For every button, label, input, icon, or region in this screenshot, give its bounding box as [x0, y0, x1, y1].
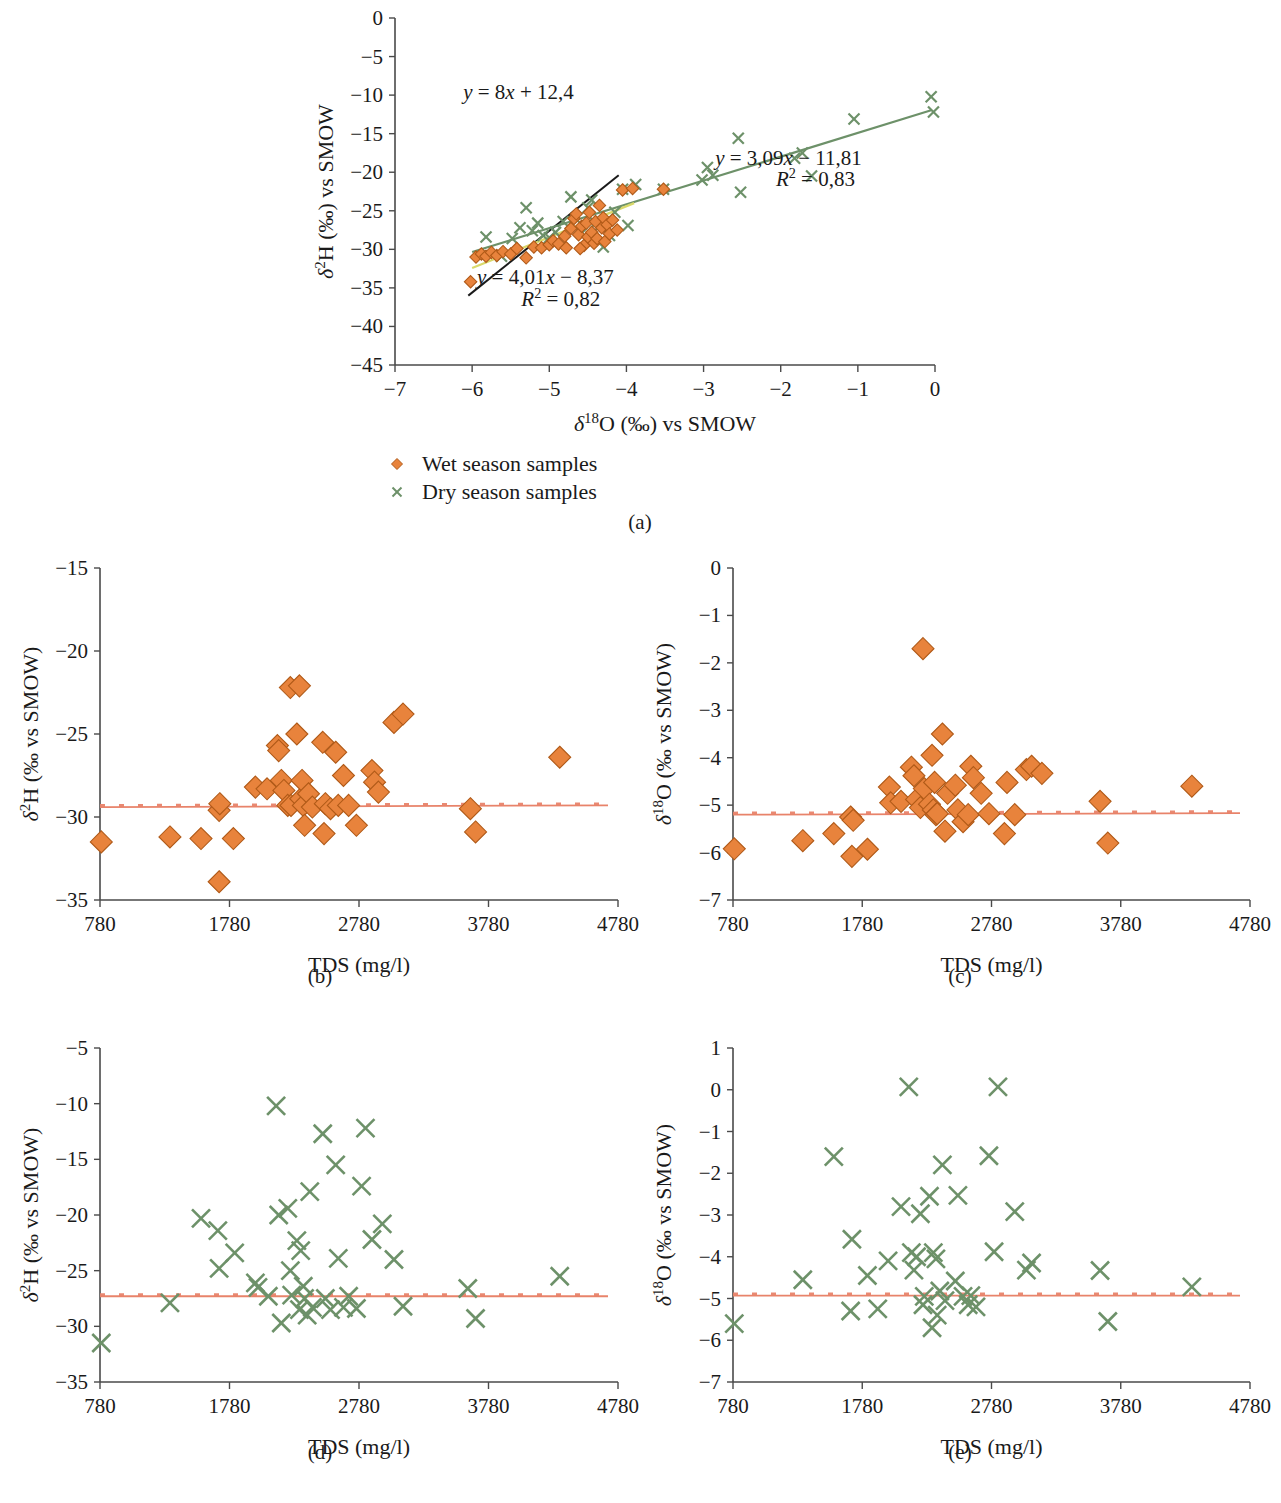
- data-point-cross: [329, 1249, 347, 1267]
- y-tick-label: −5: [66, 1036, 88, 1060]
- data-point-cross: [911, 1205, 929, 1223]
- data-point-diamond: [792, 830, 814, 852]
- cross-icon: [390, 485, 404, 499]
- data-point-diamond: [313, 823, 335, 845]
- data-point-cross: [843, 1230, 861, 1248]
- x-tick-label: 3780: [1100, 1394, 1142, 1418]
- data-point-cross: [924, 1244, 942, 1262]
- y-tick-label: −35: [55, 888, 88, 912]
- panel-a: 0−5−10−15−20−25−30−35−40−45−7−6−5−4−3−2−…: [300, 0, 1000, 420]
- data-point-diamond: [1181, 775, 1203, 797]
- panel-b-plot: −15−20−25−30−357801780278037804780TDS (m…: [0, 540, 640, 960]
- x-tick-label: 3780: [468, 1394, 510, 1418]
- data-point-diamond: [921, 744, 943, 766]
- legend-label-wet: Wet season samples: [422, 451, 597, 477]
- series-dry: [92, 1097, 568, 1352]
- data-point-cross: [985, 1243, 1003, 1261]
- data-point-cross: [794, 1271, 812, 1289]
- y-tick-label: −6: [699, 841, 721, 865]
- data-point-cross: [301, 1183, 319, 1201]
- y-tick-label: 0: [373, 6, 384, 30]
- data-point-cross: [849, 114, 860, 125]
- y-tick-label: −25: [55, 1259, 88, 1283]
- y-tick-label: 0: [711, 556, 722, 580]
- data-point-cross: [949, 1186, 967, 1204]
- y-tick-label: −10: [55, 1092, 88, 1116]
- data-point-cross: [481, 231, 492, 242]
- y-tick-label: −1: [699, 1120, 721, 1144]
- data-point-cross: [879, 1252, 897, 1270]
- y-tick-label: −6: [699, 1328, 721, 1352]
- y-tick-label: −15: [350, 122, 383, 146]
- y-axis-title: δ2H (‰) vs SMOW: [312, 104, 338, 279]
- data-point-diamond: [1004, 804, 1026, 826]
- data-point-cross: [303, 1298, 321, 1316]
- data-point-cross: [725, 1315, 743, 1333]
- x-tick-label: 780: [717, 912, 749, 936]
- data-point-diamond: [931, 723, 953, 745]
- x-tick-label: −5: [538, 377, 560, 401]
- data-point-cross: [210, 1259, 228, 1277]
- y-tick-label: −35: [350, 276, 383, 300]
- x-tick-label: 1780: [209, 1394, 251, 1418]
- x-tick-label: −1: [847, 377, 869, 401]
- data-point-cross: [267, 1097, 285, 1115]
- axes: 0−5−10−15−20−25−30−35−40−45−7−6−5−4−3−2−…: [350, 6, 940, 401]
- data-point-cross: [908, 1248, 926, 1266]
- data-point-diamond: [996, 771, 1018, 793]
- data-point-cross: [733, 133, 744, 144]
- data-point-diamond: [823, 823, 845, 845]
- panel-label-a: (a): [600, 510, 680, 535]
- data-point-cross: [209, 1222, 227, 1240]
- x-tick-label: −7: [384, 377, 406, 401]
- data-point-cross: [980, 1147, 998, 1165]
- x-tick-label: 0: [930, 377, 941, 401]
- x-tick-label: −4: [615, 377, 638, 401]
- data-point-cross: [842, 1302, 860, 1320]
- y-tick-label: −10: [350, 83, 383, 107]
- y-tick-label: −30: [350, 237, 383, 261]
- data-point-diamond: [549, 746, 571, 768]
- series-wet: [90, 675, 570, 893]
- dry-regression-r2: R2 = 0,83: [775, 165, 855, 191]
- data-point-cross: [928, 107, 939, 118]
- y-tick-label: −2: [699, 651, 721, 675]
- y-tick-label: 1: [711, 1036, 722, 1060]
- data-point-cross: [565, 191, 576, 202]
- x-tick-label: 2780: [971, 912, 1013, 936]
- panel-e: 10−1−2−3−4−5−6−77801780278037804780TDS (…: [640, 1010, 1281, 1430]
- data-point-cross: [353, 1177, 371, 1195]
- series-wet: [723, 638, 1203, 868]
- gmwl-equation: y = 8x + 12,4: [461, 80, 574, 104]
- data-point-cross: [327, 1156, 345, 1174]
- data-point-cross: [1023, 1254, 1041, 1272]
- data-point-cross: [622, 220, 633, 231]
- x-tick-label: 2780: [971, 1394, 1013, 1418]
- trendline-group: [733, 1294, 1240, 1296]
- data-point-cross: [926, 91, 937, 102]
- x-tick-label: 4780: [597, 912, 639, 936]
- data-point-cross: [1006, 1203, 1024, 1221]
- data-point-cross: [385, 1251, 403, 1269]
- panel-d: −5−10−15−20−25−30−357801780278037804780T…: [0, 1010, 640, 1430]
- panel-a-plot: 0−5−10−15−20−25−30−35−40−45−7−6−5−4−3−2−…: [300, 0, 1000, 420]
- legend-item-dry: Dry season samples: [390, 478, 597, 506]
- data-point-cross: [825, 1148, 843, 1166]
- data-point-cross: [92, 1334, 110, 1352]
- x-tick-label: 1780: [841, 1394, 883, 1418]
- data-point-diamond: [459, 798, 481, 820]
- y-tick-label: −45: [350, 353, 383, 377]
- panel-e-plot: 10−1−2−3−4−5−6−77801780278037804780TDS (…: [640, 1010, 1281, 1430]
- legend-label-dry: Dry season samples: [422, 479, 597, 505]
- data-point-cross: [467, 1310, 485, 1328]
- axes: 0−1−2−3−4−5−6−77801780278037804780: [699, 556, 1271, 936]
- x-tick-label: 780: [84, 1394, 116, 1418]
- y-tick-label: −25: [55, 722, 88, 746]
- data-point-cross: [192, 1209, 210, 1227]
- data-point-cross: [1091, 1262, 1109, 1280]
- y-tick-label: 0: [711, 1078, 722, 1102]
- x-tick-label: 3780: [468, 912, 510, 936]
- wet-regression-r2: R2 = 0,82: [520, 285, 600, 311]
- data-point-diamond: [912, 638, 934, 660]
- x-axis-title: δ18O (‰) vs SMOW: [574, 410, 756, 436]
